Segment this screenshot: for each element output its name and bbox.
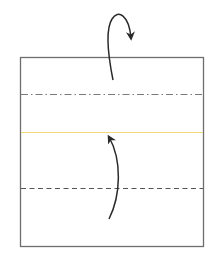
origami-diagram — [0, 0, 218, 259]
paper-square — [21, 58, 204, 247]
